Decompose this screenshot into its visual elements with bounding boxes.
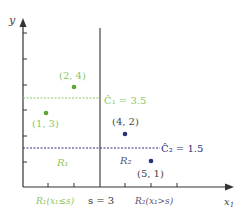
region-label-r1: R₁ <box>56 157 69 168</box>
point-2-4: (2, 4) <box>59 70 86 89</box>
mean-label-c2: Ĉ₂ = 1.5 <box>161 143 203 154</box>
split-label: s = 3 <box>88 195 114 206</box>
point-4-2: (4, 2) <box>112 116 139 136</box>
y-axis-label: y <box>8 14 16 27</box>
y-axis-arrow-icon <box>20 18 27 27</box>
x-axis-arrow-icon <box>225 184 234 191</box>
svg-text:(2, 4): (2, 4) <box>59 70 86 81</box>
y-axis: y <box>8 14 27 187</box>
svg-text:(4, 2): (4, 2) <box>112 116 139 127</box>
region-axis-label-r1: R₁(x₁≤s) <box>35 196 75 206</box>
region-label-r2: R₂ <box>119 155 132 166</box>
svg-text:(1, 3): (1, 3) <box>32 118 59 129</box>
svg-text:(5, 1): (5, 1) <box>137 168 164 179</box>
mean-label-c1: Ĉ₁ = 3.5 <box>104 95 146 106</box>
x-axis-label: x1 <box>224 196 234 209</box>
point-5-1: (5, 1) <box>137 159 164 179</box>
regression-tree-diagram: y x1 s = 3 Ĉ₁ = 3.5 Ĉ₂ = 1.5 (2, 4) (1, … <box>0 0 247 215</box>
region-axis-label-r2: R₂(x₁>s) <box>134 196 174 206</box>
point-1-3: (1, 3) <box>32 111 59 129</box>
